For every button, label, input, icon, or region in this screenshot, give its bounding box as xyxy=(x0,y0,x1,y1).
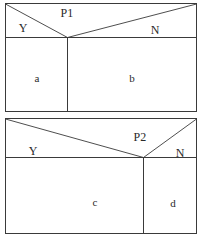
bottom-panel-leaf-c-label: c xyxy=(93,197,98,208)
top-panel-yes-label: Y xyxy=(19,22,28,34)
top-panel-leaf-b-label: b xyxy=(129,73,135,84)
top-panel-no-branch-line xyxy=(68,4,197,38)
diagram-canvas: P1 Y N a b P2 Y N c d xyxy=(0,0,204,243)
top-panel-yes-branch-line xyxy=(6,4,68,38)
bottom-panel-no-branch-line xyxy=(144,119,197,158)
bottom-panel-yes-label: Y xyxy=(29,145,38,157)
top-panel-leaf-a-label: a xyxy=(35,73,40,84)
top-panel-no-label: N xyxy=(151,24,160,36)
bottom-panel-frame xyxy=(6,119,197,234)
bottom-panel-no-label: N xyxy=(176,147,185,159)
bottom-panel-leaf-d-label: d xyxy=(170,198,176,209)
top-panel-node-label: P1 xyxy=(60,7,73,19)
bottom-panel-node-label: P2 xyxy=(133,131,146,143)
bottom-panel-yes-branch-line xyxy=(6,119,144,158)
